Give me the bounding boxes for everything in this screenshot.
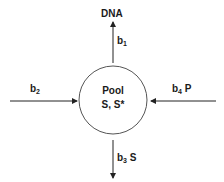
rate-b1-label: b1 bbox=[117, 36, 127, 46]
pool-title: Pool bbox=[93, 86, 133, 96]
dna-label: DNA bbox=[101, 9, 123, 19]
rate-b4-label: b4 P bbox=[172, 84, 191, 94]
pool-contents: S, S* bbox=[90, 100, 136, 110]
rate-b3-label: b3 S bbox=[117, 153, 136, 163]
rate-b2-label: b2 bbox=[30, 84, 40, 94]
